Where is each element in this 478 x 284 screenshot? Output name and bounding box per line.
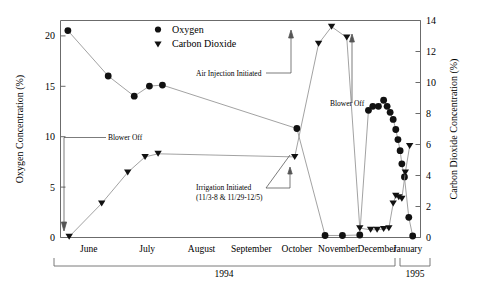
left-axis-ticks	[61, 36, 66, 238]
left-axis-tick-labels: 0 5 10 15 20	[45, 30, 55, 243]
left-tick-0: 0	[50, 232, 55, 243]
right-tick-12: 12	[426, 46, 436, 57]
annotation-irrigation-label: Irrigation Initiated	[196, 183, 251, 192]
data-point	[339, 232, 346, 239]
left-tick-20: 20	[45, 30, 55, 41]
month-label-july: July	[139, 244, 155, 254]
month-label-january: January	[393, 244, 423, 254]
data-point	[105, 73, 112, 80]
right-axis-tick-labels: 0 2 4 6 8 10 12 14	[426, 15, 436, 243]
right-axis-ticks	[416, 21, 421, 238]
legend: Oxygen Carbon Dioxide	[154, 24, 236, 49]
data-point	[293, 125, 300, 132]
data-point	[405, 214, 412, 221]
data-point	[384, 103, 391, 110]
annotation-irrigation: Irrigation Initiated (11/3-8 & 11/29-12/…	[196, 155, 292, 202]
data-series-layer	[64, 24, 416, 240]
data-point	[343, 35, 350, 41]
legend-marker-oxygen	[155, 26, 161, 32]
series-carbon-dioxide	[65, 24, 413, 240]
month-label-november: November	[318, 244, 359, 254]
data-point	[64, 27, 71, 34]
data-point	[390, 116, 397, 123]
data-point	[380, 97, 387, 104]
xaxis-month-labels: JuneJulyAugustSeptemberOctoberNovemberDe…	[80, 244, 423, 254]
left-axis-title: Oxygen Concentration (%)	[14, 75, 26, 183]
data-point	[387, 109, 394, 116]
data-point	[131, 93, 138, 100]
annotation-blower-off-left: Blower Off	[61, 133, 142, 231]
right-axis-title: Carbon Dioxide Concentration (%)	[448, 59, 460, 200]
annotation-irrigation-dates: (11/3-8 & 11/29-12/5)	[196, 193, 263, 202]
right-tick-0: 0	[426, 232, 431, 243]
data-point	[315, 41, 322, 47]
data-point	[146, 83, 153, 90]
annotation-blower-off-left-label: Blower Off	[108, 133, 143, 142]
month-label-september: September	[231, 244, 272, 254]
left-tick-15: 15	[45, 81, 55, 92]
data-point	[395, 136, 402, 143]
right-tick-14: 14	[426, 15, 436, 26]
data-point	[322, 232, 329, 239]
month-label-june: June	[80, 244, 97, 254]
month-label-august: August	[188, 244, 216, 254]
left-tick-10: 10	[45, 131, 55, 142]
right-tick-6: 6	[426, 139, 431, 150]
annotation-blower-off-right-label: Blower Off	[330, 99, 365, 108]
xaxis-year-brackets: 1994 1995	[54, 258, 430, 279]
data-point	[65, 234, 72, 240]
right-tick-2: 2	[426, 201, 431, 212]
data-point	[356, 232, 363, 239]
data-point	[375, 103, 382, 110]
figure-container: 0 5 10 15 20 Oxygen Concentration (%) 0 …	[0, 0, 478, 284]
month-label-october: October	[282, 244, 313, 254]
annotation-air-injection-label: Air Injection Initiated	[196, 69, 262, 78]
series-line	[69, 27, 409, 237]
data-point	[409, 233, 416, 240]
data-point	[124, 169, 131, 175]
chart-svg: 0 5 10 15 20 Oxygen Concentration (%) 0 …	[0, 0, 478, 284]
left-tick-5: 5	[50, 182, 55, 193]
legend-marker-carbon-dioxide	[154, 41, 161, 47]
data-point	[398, 160, 405, 167]
data-point	[406, 143, 413, 149]
right-tick-10: 10	[426, 77, 436, 88]
year-label-1995: 1995	[406, 269, 425, 279]
data-point	[159, 82, 166, 89]
right-tick-4: 4	[426, 170, 431, 181]
plot-frame	[61, 21, 421, 238]
data-point	[392, 126, 399, 133]
data-point	[389, 200, 396, 206]
year-label-1994: 1994	[215, 269, 234, 279]
right-tick-8: 8	[426, 108, 431, 119]
legend-label-carbon-dioxide: Carbon Dioxide	[172, 38, 237, 49]
legend-label-oxygen: Oxygen	[172, 24, 204, 35]
data-point	[397, 147, 404, 154]
month-label-december: December	[358, 244, 398, 254]
